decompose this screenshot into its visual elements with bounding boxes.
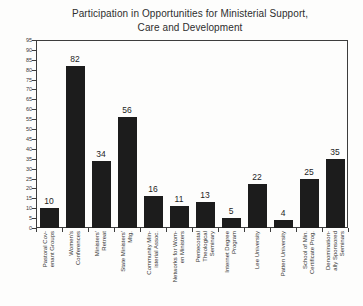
chart-title-line1: Participation in Opportunities for Minis… (20, 7, 360, 21)
bar (118, 117, 137, 228)
y-tick-label: 95 (14, 37, 32, 43)
y-tick-mark (32, 139, 36, 140)
y-tick-label: 60 (14, 106, 32, 112)
y-tick-mark (32, 60, 36, 61)
bar-value-label: 5 (215, 206, 247, 216)
y-tick-label: 55 (14, 116, 32, 122)
y-tick-label: 10 (14, 205, 32, 211)
y-tick-label: 90 (14, 47, 32, 53)
x-tick-mark (348, 228, 349, 232)
y-tick-mark (32, 218, 36, 219)
x-tick-label: Networks for Wom- en Ministers (166, 231, 192, 301)
y-tick-label: 0 (14, 225, 32, 231)
y-tick-mark (32, 40, 36, 41)
bar (66, 66, 85, 228)
y-tick-mark (32, 179, 36, 180)
bar-value-label: 22 (241, 172, 273, 182)
chart-title: Participation in Opportunities for Minis… (20, 7, 360, 34)
x-tick-label: State Ministers' Mtg. (114, 231, 140, 301)
x-tick-label: Lee University (244, 231, 270, 301)
bar (300, 179, 319, 228)
y-tick-label: 85 (14, 57, 32, 63)
y-tick-mark (32, 149, 36, 150)
y-tick-label: 45 (14, 136, 32, 142)
y-tick-mark (32, 109, 36, 110)
y-tick-mark (32, 159, 36, 160)
bar-value-label: 13 (189, 190, 221, 200)
y-tick-label: 50 (14, 126, 32, 132)
bar-value-label: 4 (267, 208, 299, 218)
y-tick-label: 65 (14, 96, 32, 102)
y-tick-mark (32, 70, 36, 71)
x-tick-label: Internet Degree Program (218, 231, 244, 301)
bar (144, 196, 163, 228)
y-tick-mark (32, 169, 36, 170)
bar (92, 161, 111, 228)
bar-value-label: 82 (59, 54, 91, 64)
y-tick-label: 5 (14, 215, 32, 221)
y-tick-label: 40 (14, 146, 32, 152)
y-tick-label: 30 (14, 166, 32, 172)
bar-value-label: 56 (111, 105, 143, 115)
y-tick-label: 80 (14, 67, 32, 73)
y-tick-mark (32, 119, 36, 120)
x-tick-label: Pastoral Cov- enant Groups (36, 231, 62, 301)
y-tick-label: 25 (14, 176, 32, 182)
y-tick-mark (32, 80, 36, 81)
y-tick-label: 35 (14, 156, 32, 162)
chart-title-line2: Care and Development (20, 21, 360, 35)
y-tick-mark (32, 129, 36, 130)
y-tick-label: 20 (14, 185, 32, 191)
y-tick-mark (32, 208, 36, 209)
y-tick-label: 75 (14, 77, 32, 83)
bar (222, 218, 241, 228)
y-tick-mark (32, 50, 36, 51)
bar (40, 208, 59, 228)
x-tick-label: Ministers' Retreat (88, 231, 114, 301)
x-tick-label: Patten University (270, 231, 296, 301)
bar-value-label: 35 (319, 147, 351, 157)
bar (274, 220, 293, 228)
x-tick-label: Community Min- isterial Assoc. (140, 231, 166, 301)
bar (196, 202, 215, 228)
y-tick-label: 70 (14, 86, 32, 92)
bar (326, 159, 345, 228)
x-tick-label: Pentecostal Theological Seminary (192, 231, 218, 301)
y-tick-mark (32, 99, 36, 100)
bar-value-label: 10 (33, 196, 65, 206)
bar-value-label: 34 (85, 149, 117, 159)
bar-value-label: 16 (137, 184, 169, 194)
y-tick-mark (32, 188, 36, 189)
x-tick-label: Women's Conferences (62, 231, 88, 301)
bar (248, 184, 267, 228)
y-tick-label: 15 (14, 195, 32, 201)
scanned-bar-chart: Participation in Opportunities for Minis… (0, 0, 363, 306)
bar-value-label: 25 (293, 167, 325, 177)
x-tick-label: Denomination- ally Sponsored Seminars (322, 231, 348, 301)
bar (170, 206, 189, 228)
y-tick-mark (32, 89, 36, 90)
x-tick-label: School of Min. Certificate Prog. (296, 231, 322, 301)
